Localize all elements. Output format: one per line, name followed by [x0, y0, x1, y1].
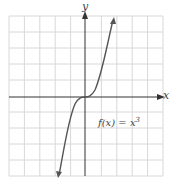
y-axis-label: y [82, 0, 88, 13]
curve-arrow-top-icon [110, 17, 116, 24]
cubic-graph [0, 0, 171, 182]
grid [9, 16, 163, 176]
function-text: f(x) = x [98, 117, 136, 128]
function-label: f(x) = x3 [98, 116, 140, 128]
axes [9, 16, 160, 176]
curve-arrow-bottom-icon [56, 171, 62, 178]
x-axis-label: x [163, 89, 169, 102]
function-exponent: 3 [136, 116, 140, 124]
